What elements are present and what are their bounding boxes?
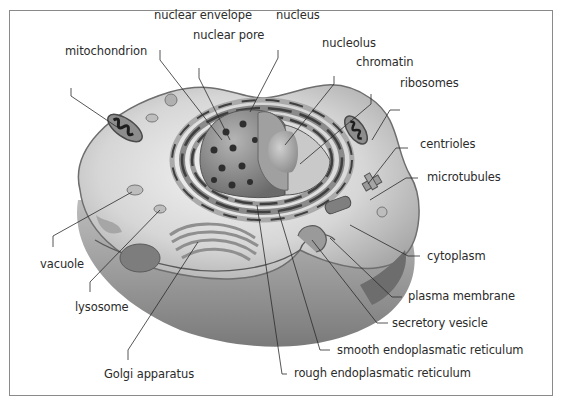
label-rough-er: rough endoplasmatic reticulum	[294, 366, 471, 380]
label-centrioles: centrioles	[420, 137, 475, 151]
label-microtubules: microtubules	[427, 170, 501, 184]
label-nuclear-pore: nuclear pore	[193, 28, 264, 42]
label-plasma-membrane: plasma membrane	[408, 289, 515, 303]
label-lysosome: lysosome	[75, 300, 129, 314]
label-nucleolus: nucleolus	[322, 36, 376, 50]
label-nucleus: nucleus	[276, 8, 320, 22]
label-golgi-apparatus: Golgi apparatus	[104, 367, 194, 381]
label-vacuole: vacuole	[40, 257, 84, 271]
label-nuclear-envelope: nuclear envelope	[154, 8, 252, 22]
label-mitochondrion: mitochondrion	[65, 44, 147, 58]
label-smooth-er: smooth endoplasmatic reticulum	[337, 343, 523, 357]
label-ribosomes: ribosomes	[400, 76, 459, 90]
label-secretory-vesicle: secretory vesicle	[392, 316, 488, 330]
label-cytoplasm: cytoplasm	[427, 249, 486, 263]
label-chromatin: chromatin	[356, 55, 413, 69]
